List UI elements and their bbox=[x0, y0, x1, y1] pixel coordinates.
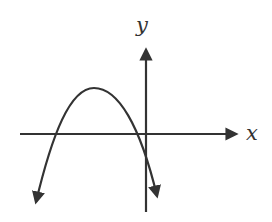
y-axis-label: y bbox=[135, 13, 149, 37]
x-axis-label: x bbox=[246, 121, 258, 145]
parabola-graph: y x bbox=[0, 0, 272, 222]
parabola-curve bbox=[36, 88, 157, 202]
